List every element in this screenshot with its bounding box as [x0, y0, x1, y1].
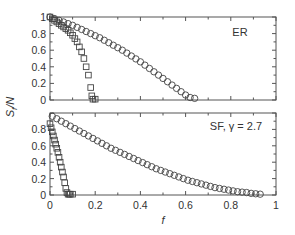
data-point-circle	[198, 181, 204, 187]
data-point-circle	[194, 180, 200, 186]
data-point-square	[72, 36, 78, 42]
data-point-circle	[189, 178, 195, 184]
data-point-circle	[216, 185, 222, 191]
data-point-circle	[137, 59, 143, 65]
series-circles	[47, 14, 198, 102]
x-tick-label: 0	[47, 199, 53, 211]
y-axis-label: Sf/N	[4, 97, 19, 118]
y-tick-label: 0.4	[31, 61, 46, 73]
data-point-circle	[164, 79, 170, 85]
data-point-circle	[173, 85, 179, 91]
series-squares	[47, 121, 75, 197]
data-point-square	[88, 85, 94, 91]
data-point-circle	[212, 184, 218, 190]
data-point-square	[83, 64, 89, 70]
data-point-circle	[155, 72, 161, 78]
x-tick-label: 0.8	[223, 199, 238, 211]
data-point-circle	[128, 53, 134, 59]
data-point-circle	[225, 187, 231, 193]
data-point-circle	[203, 182, 209, 188]
data-point-circle	[191, 95, 197, 101]
y-tick-label: 0.6	[31, 140, 46, 152]
data-point-circle	[133, 56, 139, 62]
data-point-circle	[169, 82, 175, 88]
data-point-circle	[160, 75, 166, 81]
x-tick-label: 0.6	[178, 199, 193, 211]
svg-text:Sf/N: Sf/N	[4, 97, 19, 118]
y-tick-label: 0.8	[31, 28, 46, 40]
y-tick-label: 0	[40, 189, 46, 201]
data-point-square	[62, 180, 68, 186]
data-point-circle	[124, 50, 130, 56]
y-tick-label: 0.4	[31, 156, 46, 168]
data-point-circle	[146, 65, 152, 71]
data-point-circle	[142, 62, 148, 68]
y-tick-label: 0.2	[31, 173, 46, 185]
data-point-square	[81, 56, 87, 62]
chart: 00.20.40.60.81 00.20.40.60.800.20.40.60.…	[0, 0, 295, 235]
data-point-circle	[151, 69, 157, 75]
x-tick-label: 0.2	[88, 199, 103, 211]
x-tick-label: 0.4	[133, 199, 148, 211]
data-point-circle	[207, 183, 213, 189]
bottom-panel-annotation: SF, γ = 2.7	[210, 120, 262, 132]
data-point-circle	[178, 89, 184, 95]
data-point-circle	[221, 186, 227, 192]
y-tick-label: 0.2	[31, 77, 46, 89]
data-point-circle	[230, 188, 236, 194]
top-panel-annotation: ER	[232, 26, 247, 38]
y-tick-label: 0.6	[31, 44, 46, 56]
series-squares	[47, 14, 98, 102]
data-point-circle	[257, 191, 263, 197]
y-tick-label: 0.8	[31, 123, 46, 135]
x-tick-label: 1	[273, 199, 279, 211]
y-tick-label: 0	[40, 94, 46, 106]
y-tick-label: 1	[40, 11, 46, 23]
x-axis-label: f	[161, 214, 165, 226]
data-point-square	[86, 72, 92, 78]
